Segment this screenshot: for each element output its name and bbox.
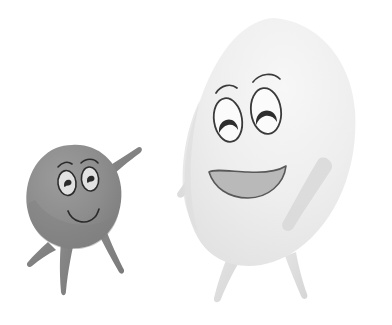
illustration-canvas: Two cartoon blob characters A small dark… [0, 0, 392, 325]
characters-svg [0, 0, 392, 325]
